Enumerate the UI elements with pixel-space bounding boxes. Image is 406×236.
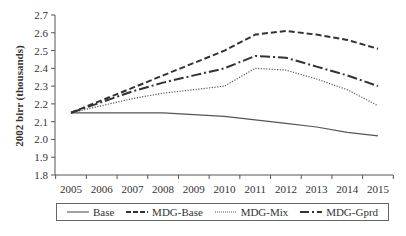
y-tick-label: 2.4	[34, 62, 48, 74]
x-axis: 2005200620072008200920102011201220132014…	[55, 175, 393, 195]
legend: Base MDG-Base MDG-Mix MDG-Gprd	[56, 203, 389, 221]
dotted-line-icon	[215, 209, 237, 215]
y-tick-label: 2.1	[34, 116, 48, 128]
y-tick-label: 2.5	[34, 45, 48, 57]
legend-item-base: Base	[67, 206, 114, 218]
legend-label: MDG-Base	[152, 206, 203, 218]
x-tick-label: 2009	[183, 183, 206, 195]
x-tick-label: 2012	[275, 183, 297, 195]
solid-line-icon	[67, 209, 89, 215]
legend-label: Base	[93, 206, 114, 218]
series-base-line	[71, 113, 378, 136]
legend-label: MDG-Gprd	[326, 206, 378, 218]
x-tick-label: 2005	[60, 183, 83, 195]
legend-label: MDG-Mix	[241, 206, 289, 218]
series-lines	[71, 31, 378, 136]
dashed-line-icon	[126, 209, 148, 215]
y-tick-label: 2.0	[34, 133, 48, 145]
x-tick-label: 2006	[91, 183, 114, 195]
x-tick-label: 2010	[214, 183, 237, 195]
x-tick-label: 2014	[336, 183, 359, 195]
line-chart: 1.81.92.02.12.22.32.42.52.62.7 200520062…	[0, 0, 406, 236]
y-tick-label: 2.2	[34, 98, 48, 110]
x-tick-label: 2011	[244, 183, 266, 195]
x-tick-label: 2015	[367, 183, 390, 195]
y-axis: 1.81.92.02.12.22.32.42.52.62.7	[34, 9, 55, 181]
x-tick-label: 2007	[121, 183, 144, 195]
x-tick-label: 2013	[306, 183, 329, 195]
dash-dot-line-icon	[300, 209, 322, 215]
y-tick-label: 1.8	[34, 169, 48, 181]
series-mdg-mix-line	[71, 68, 378, 113]
y-tick-label: 2.7	[34, 9, 48, 21]
y-axis-title: 2002 birr (thousands)	[13, 45, 26, 147]
x-tick-label: 2008	[152, 183, 175, 195]
y-tick-label: 1.9	[34, 151, 48, 163]
y-tick-label: 2.6	[34, 27, 48, 39]
legend-item-mdg-mix: MDG-Mix	[215, 206, 289, 218]
y-tick-label: 2.3	[34, 80, 48, 92]
legend-item-mdg-base: MDG-Base	[126, 206, 203, 218]
legend-item-mdg-gprd: MDG-Gprd	[300, 206, 378, 218]
